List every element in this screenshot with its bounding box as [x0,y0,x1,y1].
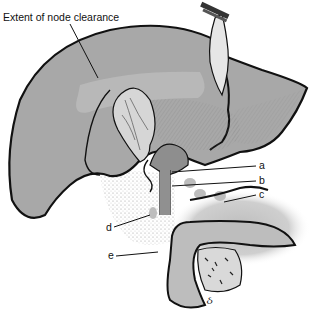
leader-e [116,252,158,256]
artist-signature: ઠ [206,295,212,306]
illustration-drawing [0,0,314,315]
pancreas-head [198,248,242,292]
label-a: a [259,160,265,171]
label-b: b [259,175,265,186]
lymph-node [149,207,157,219]
label-e: e [108,250,114,261]
portal-vein [160,170,170,215]
label-c: c [259,189,264,200]
liver-anatomy-illustration: Extent of node clearance a b c d e ઠ [0,0,314,315]
label-d: d [106,222,112,233]
lymph-node [184,178,196,188]
node-clearance-annotation: Extent of node clearance [3,12,119,23]
